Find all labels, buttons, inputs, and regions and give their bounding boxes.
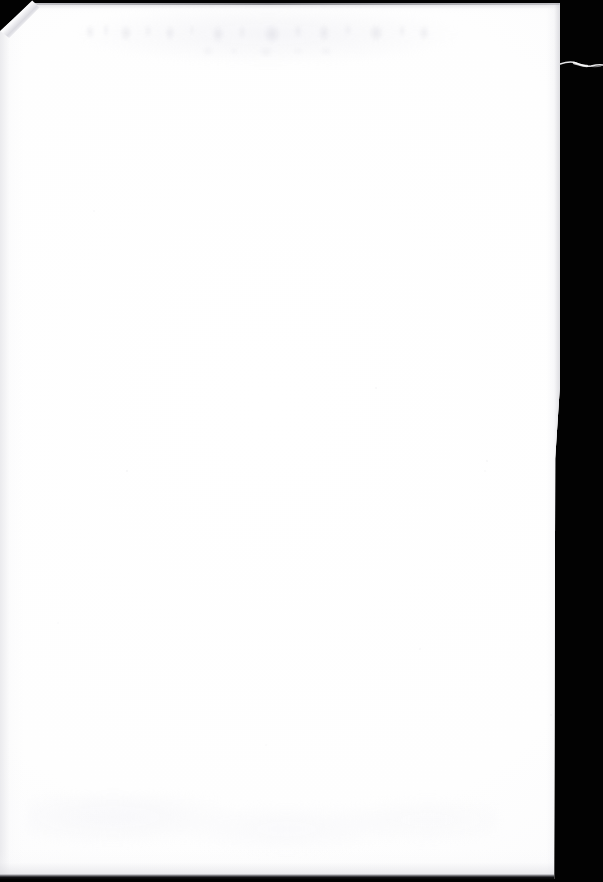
scan-edge-line-top	[28, 3, 560, 5]
paper-fiber-wisp	[560, 60, 603, 71]
scan-canvas: Blank scanned page with black scanner ba…	[0, 0, 603, 882]
paper-grain-texture	[0, 3, 562, 879]
page-sheet	[0, 3, 562, 879]
scan-edge-line-bottom	[0, 875, 560, 879]
